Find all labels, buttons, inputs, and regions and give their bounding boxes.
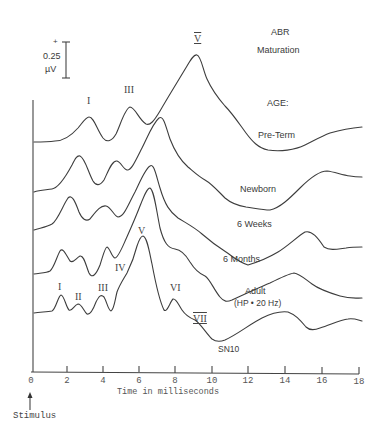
scale-bar-unit: µV [45, 64, 56, 74]
x-tick-6: 6 [136, 376, 141, 386]
chart-title-line-2: Maturation [257, 45, 300, 55]
adult-wave-ii-label: II [75, 291, 82, 302]
x-tick-2: 2 [64, 376, 69, 386]
x-tick-4: 4 [100, 376, 105, 386]
trace-6-months [34, 188, 362, 301]
preterm-wave-v-label: V [194, 33, 201, 44]
adult-wave-i-label: I [58, 281, 61, 292]
x-tick-16: 16 [317, 376, 328, 386]
x-tick-14: 14 [280, 376, 291, 386]
series-label-newborn: Newborn [240, 184, 276, 194]
adult-wave-v-label: V [138, 225, 145, 236]
adult-wave-vi-label: VI [170, 282, 181, 293]
adult-wave-iii-label: III [98, 282, 108, 293]
trace-adult [34, 236, 362, 341]
legend-header: AGE: [267, 98, 289, 108]
abr-chart [0, 0, 384, 441]
x-tick-12: 12 [243, 376, 254, 386]
series-sublabel-adult: (HP • 20 Hz) [234, 298, 281, 308]
series-label-6-months: 6 Months [223, 254, 260, 264]
x-tick-18: 18 [354, 377, 365, 387]
stimulus-arrow-icon [28, 392, 33, 410]
series-label-adult: Adult [245, 286, 266, 296]
adult-wave-vii-label: VII [193, 313, 207, 324]
stimulus-label: Stimulus [13, 411, 56, 421]
x-tick-0: 0 [28, 376, 33, 386]
x-axis-label: Time in milliseconds [117, 387, 219, 397]
preterm-wave-iii-label: III [124, 84, 134, 95]
scale-bar-plus: + [53, 37, 58, 46]
x-tick-8: 8 [172, 376, 177, 386]
trace-newborn [34, 118, 362, 210]
series-label-6-weeks: 6 Weeks [237, 219, 272, 229]
preterm-wave-i-label: I [87, 95, 90, 106]
series-label-pre-term: Pre-Term [258, 130, 295, 140]
adult-wave-iv-label: IV [115, 262, 126, 273]
x-tick-10: 10 [207, 376, 218, 386]
chart-title-line-1: ABR [271, 27, 290, 37]
scale-bar-value: 0.25 [43, 51, 61, 61]
trace-6-weeks [34, 166, 362, 265]
trace-pre-term [34, 55, 362, 151]
sn10-label: SN10 [218, 344, 239, 354]
x-axis [31, 372, 359, 374]
scale-bar [62, 42, 70, 78]
